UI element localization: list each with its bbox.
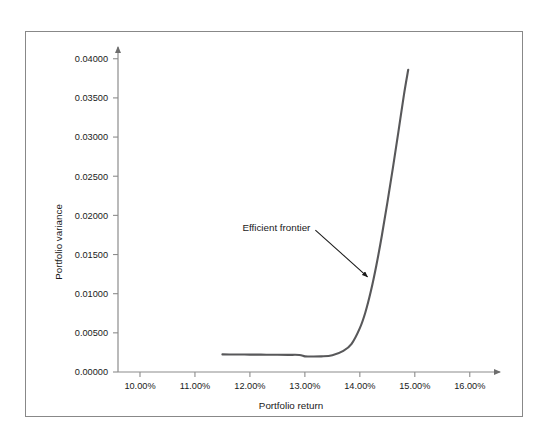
y-tick-label: 0.03000: [75, 132, 108, 142]
annotation-label: Efficient frontier: [242, 222, 311, 233]
efficient-frontier-chart: 0.000000.005000.010000.015000.020000.025…: [0, 0, 539, 440]
x-tick-label: 13.00%: [289, 381, 320, 391]
y-tick-label: 0.03500: [75, 93, 108, 103]
x-tick-label: 14.00%: [344, 381, 375, 391]
figure-container: 0.000000.005000.010000.015000.020000.025…: [0, 0, 539, 440]
y-tick-label: 0.00500: [75, 328, 108, 338]
y-axis-title: Portfolio variance: [53, 204, 64, 280]
x-tick-label: 10.00%: [124, 381, 155, 391]
y-tick-label: 0.00000: [75, 367, 108, 377]
y-tick-label: 0.02000: [75, 211, 108, 221]
x-tick-label: 12.00%: [234, 381, 265, 391]
y-tick-label: 0.01000: [75, 289, 108, 299]
y-tick-label: 0.01500: [75, 250, 108, 260]
x-tick-label: 16.00%: [454, 381, 485, 391]
x-axis-title: Portfolio return: [259, 400, 323, 411]
y-tick-label: 0.02500: [75, 172, 108, 182]
y-tick-label: 0.04000: [75, 54, 108, 64]
x-tick-label: 11.00%: [180, 381, 210, 391]
x-tick-label: 15.00%: [399, 381, 430, 391]
